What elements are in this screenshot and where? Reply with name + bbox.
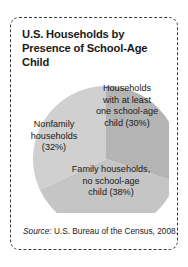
pie-chart: Households with at least one school-age …: [11, 63, 179, 218]
pie-label-school-age: Households with at least one school-age …: [87, 83, 167, 129]
source-label: Source:: [23, 226, 52, 236]
figure-card: U.S. Households by Presence of School-Ag…: [10, 17, 178, 250]
source-note: Source: U.S. Bureau of the Census, 2008.: [23, 226, 173, 237]
pie-label-family-no-school-age: Family households, no school-age child (…: [55, 164, 167, 199]
source-text: U.S. Bureau of the Census, 2008.: [52, 226, 178, 236]
pie-label-nonfamily: Nonfamily households (32%): [23, 119, 85, 154]
